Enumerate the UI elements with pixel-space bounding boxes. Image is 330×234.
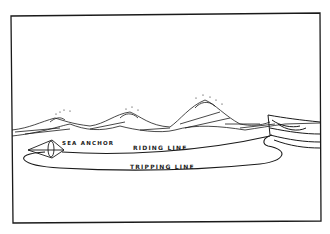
sea-anchor-illustration [0,0,330,234]
label-sea-anchor: SEA ANCHOR [62,140,114,146]
waves [12,100,320,136]
boat [268,115,320,148]
label-tripping-line: TRIPPING LINE [130,163,195,170]
wave-spray [55,94,222,114]
sea-anchor [28,140,64,158]
label-riding-line: RIDING LINE [133,144,187,151]
